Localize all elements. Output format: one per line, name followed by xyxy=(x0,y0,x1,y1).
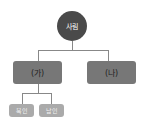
connector-to-bugin xyxy=(22,93,23,104)
connector-to-na xyxy=(108,50,109,61)
node-na-label: (나) xyxy=(105,67,118,78)
connector-level1-horizontal xyxy=(38,50,109,51)
node-namin-label: 남인 xyxy=(46,106,58,115)
node-ga: (가) xyxy=(13,61,62,84)
root-node-label: 사림 xyxy=(66,21,78,31)
connector-level2-horizontal xyxy=(22,93,52,94)
node-na: (나) xyxy=(87,61,136,84)
node-bugin: 북인 xyxy=(9,104,34,117)
connector-to-namin xyxy=(51,93,52,104)
connector-ga-down xyxy=(38,84,39,93)
connector-to-ga xyxy=(38,50,39,61)
node-namin: 남인 xyxy=(39,104,64,117)
node-bugin-label: 북인 xyxy=(16,106,28,115)
root-node-sarim: 사림 xyxy=(57,11,87,41)
node-ga-label: (가) xyxy=(31,67,44,78)
connector-root-down xyxy=(72,41,73,50)
